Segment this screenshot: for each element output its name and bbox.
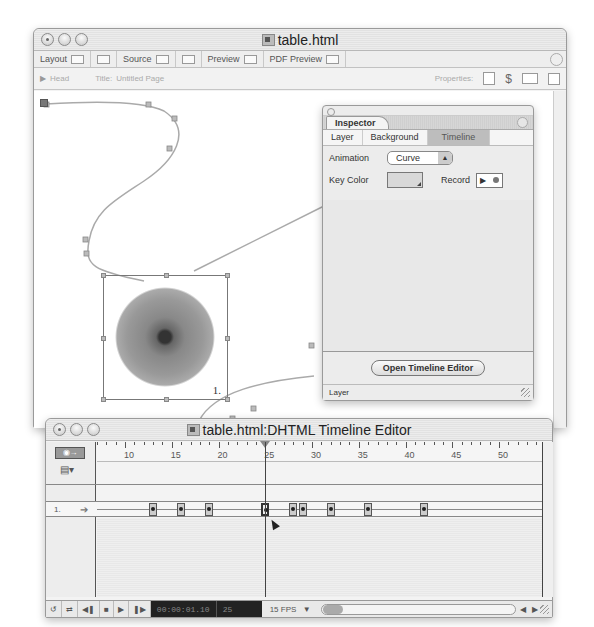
keyframe[interactable] <box>299 503 307 516</box>
loop-icon[interactable]: ↺ <box>46 601 62 617</box>
timeline-titlebar[interactable]: table.html:DHTML Timeline Editor <box>46 419 552 441</box>
flower-image <box>115 287 215 387</box>
preview-icon <box>244 55 257 64</box>
chevron-down-icon: ▼ <box>303 605 311 614</box>
document-icon <box>262 34 275 46</box>
keyframe[interactable] <box>177 503 185 516</box>
frameset-icon[interactable] <box>522 73 538 84</box>
tab-layer[interactable]: Layer <box>323 130 363 145</box>
resize-handle[interactable] <box>225 397 230 402</box>
resize-grip-icon[interactable] <box>521 388 530 397</box>
key-color-well[interactable] <box>387 172 423 188</box>
minimize-button[interactable] <box>58 33 71 46</box>
resize-handle[interactable] <box>101 273 106 278</box>
vertical-scrollbar[interactable] <box>543 442 553 597</box>
open-timeline-editor-button[interactable]: Open Timeline Editor <box>371 360 485 376</box>
close-button[interactable] <box>53 423 66 436</box>
title-label: Title: <box>95 74 112 83</box>
inspector-tabs: Layer Background Timeline <box>323 130 533 146</box>
frame-ruler[interactable]: 101520253035404550 <box>97 442 542 462</box>
toolbar-toggle-button[interactable] <box>550 53 563 66</box>
keyframe[interactable] <box>289 503 297 516</box>
disclosure-triangle-icon[interactable]: ▶ <box>40 74 46 83</box>
properties-label: Properties: <box>435 74 474 83</box>
inspector-collapse-button[interactable] <box>517 117 528 128</box>
inspector-titlebar[interactable] <box>323 106 533 116</box>
zoom-button[interactable] <box>87 423 100 436</box>
mode-toolbar: Layout Source Preview PDF Preview <box>34 51 566 68</box>
palindrome-icon[interactable]: ⇄ <box>62 601 78 617</box>
window-controls <box>41 33 88 46</box>
split-view-icon <box>97 55 110 64</box>
transport-bar: ↺ ⇄ ◀❚ ■ ▶ ❚▶ 00:00:01.10 25 15 FPS ▼ ◀ … <box>46 600 552 617</box>
page-title-field[interactable]: Untitled Page <box>116 74 164 83</box>
inspector-title: Inspector <box>326 116 389 129</box>
inspector-footer-label: Layer <box>329 388 349 397</box>
animation-label: Animation <box>329 153 387 163</box>
page-origin-marker <box>40 99 48 107</box>
tab-timeline[interactable]: Timeline <box>428 130 491 145</box>
ruler-label: 20 <box>218 450 228 460</box>
layout-icon <box>71 55 84 64</box>
scroll-thumb[interactable] <box>323 605 343 614</box>
properties-group: Properties: $ <box>435 72 560 86</box>
record-icon[interactable] <box>493 177 499 183</box>
preview-mode-button[interactable]: Preview <box>202 51 264 67</box>
layers-icon[interactable] <box>548 73 560 85</box>
minimize-button[interactable] <box>70 423 83 436</box>
pdf-preview-mode-button[interactable]: PDF Preview <box>264 51 347 67</box>
close-button[interactable] <box>41 33 54 46</box>
resize-grip-icon[interactable] <box>540 605 549 614</box>
record-label: Record <box>441 175 470 185</box>
stepper-arrows-icon: ▲ <box>438 152 452 164</box>
window-title: table.html:DHTML Timeline Editor <box>187 422 412 438</box>
resize-handle[interactable] <box>225 273 230 278</box>
scroll-right-arrow[interactable]: ▶ <box>532 605 538 614</box>
animation-select[interactable]: Curve ▲ <box>387 151 453 165</box>
play-button[interactable]: ▶ <box>114 601 129 617</box>
keyframe[interactable] <box>205 503 213 516</box>
horizontal-scrollbar[interactable] <box>321 604 516 615</box>
ruler-label: 30 <box>311 450 321 460</box>
resize-handle[interactable] <box>164 273 169 278</box>
keyframe[interactable] <box>420 503 428 516</box>
resize-handle[interactable] <box>164 397 169 402</box>
rewind-button[interactable]: ◀❚ <box>78 601 100 617</box>
layout-split-button[interactable] <box>91 51 117 67</box>
ruler-label: 50 <box>498 450 508 460</box>
vertical-scrollbar[interactable] <box>553 91 566 428</box>
keyframe[interactable] <box>327 503 335 516</box>
keyframe[interactable] <box>364 503 372 516</box>
fps-select[interactable]: 15 FPS ▼ <box>262 605 317 614</box>
stop-button[interactable]: ■ <box>100 601 114 617</box>
resize-handle[interactable] <box>101 336 106 341</box>
key-color-label: Key Color <box>329 175 387 185</box>
playhead-line[interactable] <box>265 442 266 597</box>
track-area[interactable] <box>97 518 542 597</box>
timecode-display: 00:00:01.10 <box>151 601 216 617</box>
zoom-button[interactable] <box>75 33 88 46</box>
layer-number: 1. <box>213 384 221 396</box>
resize-handle[interactable] <box>225 336 230 341</box>
frame-field[interactable]: 25 <box>216 601 262 617</box>
inspector-body <box>323 200 533 352</box>
source-mode-button[interactable]: Source <box>117 51 176 67</box>
source-icon <box>156 55 169 64</box>
ruler-label: 15 <box>171 450 181 460</box>
document-titlebar[interactable]: table.html <box>34 29 566 51</box>
step-forward-button[interactable]: ❚▶ <box>129 601 151 617</box>
scroll-left-arrow[interactable]: ◀ <box>520 605 526 614</box>
ruler-label: 45 <box>451 450 461 460</box>
layout-mode-button[interactable]: Layout <box>34 51 91 67</box>
resize-handle[interactable] <box>101 397 106 402</box>
play-icon[interactable]: ▶ <box>480 176 486 185</box>
tab-background[interactable]: Background <box>363 130 428 145</box>
track-row[interactable]: 1. ➔ <box>46 501 542 517</box>
window-controls <box>53 423 100 436</box>
link-icon[interactable]: $ <box>505 72 512 86</box>
source-split-button[interactable] <box>176 51 202 67</box>
layer-1[interactable]: 1. <box>103 275 228 400</box>
page-properties-icon[interactable] <box>483 72 495 85</box>
head-label[interactable]: Head <box>50 74 69 83</box>
keyframe[interactable] <box>149 503 157 516</box>
